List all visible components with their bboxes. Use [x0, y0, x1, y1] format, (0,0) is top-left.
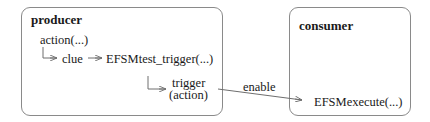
action-to-clue-arrow [43, 47, 57, 58]
enable-label: enable [243, 81, 276, 94]
clue-label: clue [62, 53, 83, 66]
test-trigger-label: EFSMtest_trigger(...) [106, 53, 213, 66]
producer-title: producer [31, 13, 82, 26]
diagram-canvas: producer action(...) clue EFSMtest_trigg… [0, 0, 430, 122]
consumer-title: consumer [299, 19, 353, 32]
execute-label: EFSMexecute(...) [314, 96, 403, 109]
trigger-action-label: (action) [169, 89, 208, 102]
test-trigger-to-trigger-arrow [148, 76, 166, 89]
action-label: action(...) [40, 34, 88, 47]
